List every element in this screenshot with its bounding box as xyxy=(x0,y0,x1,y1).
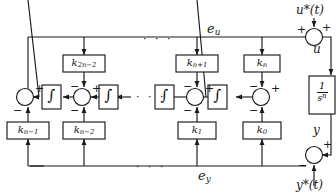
sign-sum-left-minus: − xyxy=(13,105,22,116)
u-ref-label: u*(t) xyxy=(296,3,324,17)
sign-sum-mid-left-plus: + xyxy=(92,83,101,94)
k-2n-2-label: k2n−2 xyxy=(63,57,105,69)
k-0-sub: 0 xyxy=(263,128,267,136)
block-diagram-canvas: ∫ ∫ ∫ ∫ k2n−2 kn+1 kn kn−1 kn−2 k1 k0 1 … xyxy=(0,0,336,196)
k-n-1-sub: n−1 xyxy=(24,128,38,136)
integrator-2: ∫ xyxy=(99,86,118,104)
k-1-label: k1 xyxy=(178,124,216,136)
y-label: y xyxy=(313,123,320,137)
wire-group xyxy=(28,0,331,186)
k-0-label: k0 xyxy=(243,124,281,136)
k-n+1-sub: n+1 xyxy=(193,61,207,69)
sign-sum-left-plus: + xyxy=(35,83,44,94)
e-u-sub: u xyxy=(215,27,221,37)
sign-sum-mid-left-minus-bottom: − xyxy=(70,105,79,116)
sign-sum-u-plus-top: + xyxy=(322,22,331,33)
sign-sum-right-plus: + xyxy=(271,83,280,94)
wire-usum-to-plant-corner xyxy=(322,37,331,62)
e-u-label: eu xyxy=(207,21,220,37)
sum-left xyxy=(17,89,34,106)
plant-transfer-function: 1 sn xyxy=(309,82,335,103)
sign-sum-y-minus: − xyxy=(298,160,307,171)
integrator-1: ∫ xyxy=(42,86,61,104)
y-ref-label: y*(t) xyxy=(296,178,323,192)
sign-sum-mid-left-minus-top: − xyxy=(70,81,79,92)
k-n-2-label: kn−2 xyxy=(63,124,105,136)
sum-y xyxy=(306,147,323,164)
sign-sum-mid-right-plus: + xyxy=(205,83,214,94)
k-n-1-label: kn−1 xyxy=(7,124,49,136)
k-n+1-label: kn+1 xyxy=(176,57,218,69)
ellipsis-middle: · · · xyxy=(136,90,166,103)
plant-denominator: sn xyxy=(309,93,335,103)
sign-sum-right-minus-top: − xyxy=(249,81,258,92)
sign-sum-u-plus-left: + xyxy=(297,24,306,35)
u-label: u xyxy=(313,42,321,56)
sign-sum-mid-right-minus-top: − xyxy=(183,81,192,92)
e-u-base: e xyxy=(207,21,215,36)
ellipsis-bottom: · · · xyxy=(136,160,166,173)
e-y-sub: y xyxy=(206,174,211,184)
k-1-sub: 1 xyxy=(198,128,202,136)
k-n-label: kn xyxy=(244,57,280,69)
ellipsis-top-left: · · · xyxy=(143,32,173,45)
sign-sum-right-minus-bottom: − xyxy=(249,105,258,116)
k-n-sub: n xyxy=(263,61,267,69)
sign-sum-mid-right-minus-bottom: − xyxy=(183,105,192,116)
k-n-2-sub: n−2 xyxy=(80,128,94,136)
k-2n-2-sub: 2n−2 xyxy=(78,61,97,69)
e-y-label: ey xyxy=(198,168,211,184)
e-y-base: e xyxy=(198,168,206,183)
plant-denominator-exp: n xyxy=(322,92,327,100)
plant-numerator: 1 xyxy=(309,82,335,91)
sign-sum-y-plus: + xyxy=(323,139,332,150)
